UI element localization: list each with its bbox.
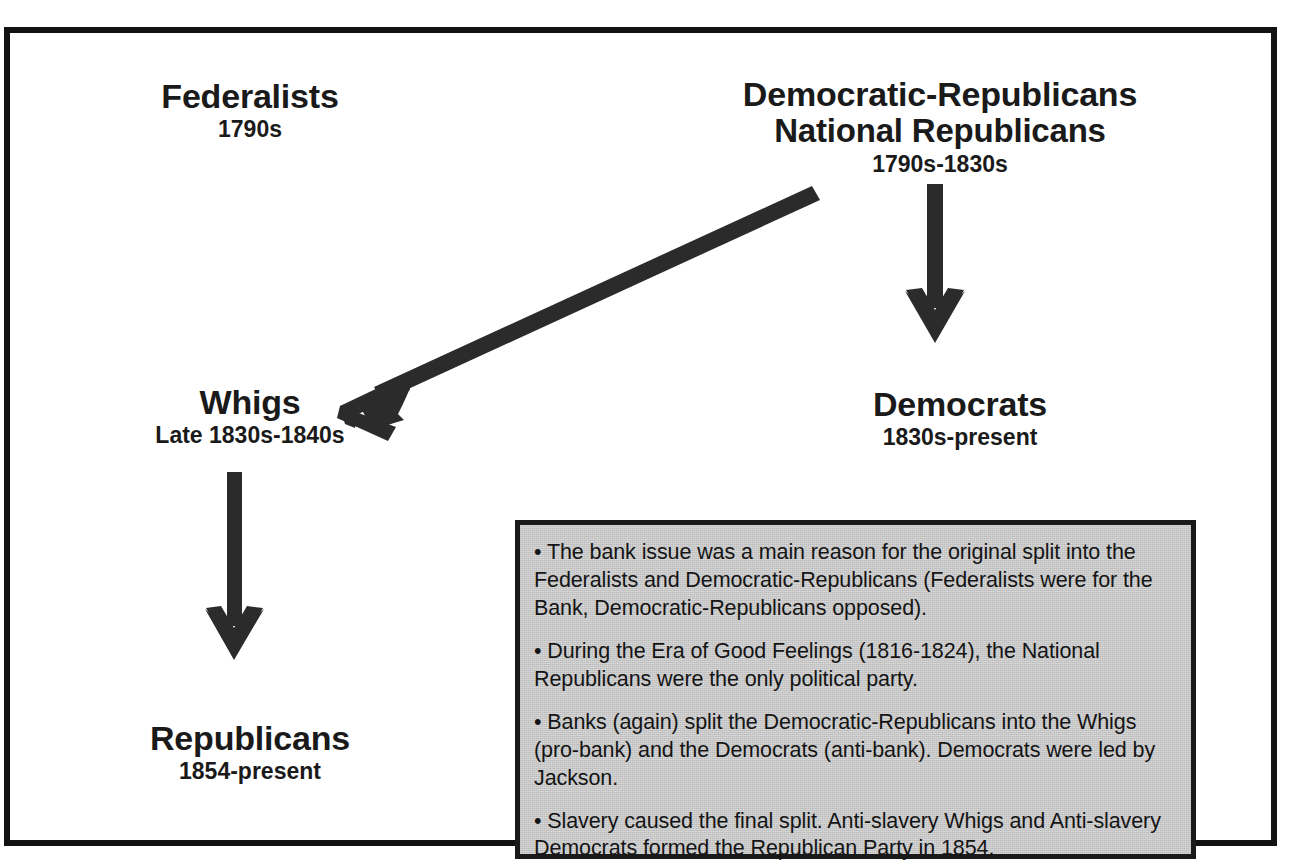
diagram-frame: Federalists 1790s Democratic-Republicans… (4, 27, 1277, 846)
note-bullet-3: • Banks (again) split the Democratic-Rep… (534, 709, 1175, 793)
node-whigs-years: Late 1830s-1840s (70, 423, 430, 449)
node-republicans-title: Republicans (70, 719, 430, 757)
node-democrats: Democrats 1830s-present (780, 385, 1140, 451)
node-democrats-title: Democrats (780, 385, 1140, 423)
node-democratic-republicans-title-line2: National Republicans (670, 113, 1210, 150)
notes-box: • The bank issue was a main reason for t… (515, 520, 1196, 859)
diagram-page: Federalists 1790s Democratic-Republicans… (0, 0, 1292, 865)
node-federalists-years: 1790s (70, 117, 430, 143)
node-democratic-republicans-years: 1790s-1830s (670, 152, 1210, 178)
node-federalists-title: Federalists (70, 77, 430, 115)
node-republicans-years: 1854-present (70, 759, 430, 785)
node-whigs: Whigs Late 1830s-1840s (70, 383, 430, 449)
node-whigs-title: Whigs (70, 383, 430, 421)
note-bullet-1: • The bank issue was a main reason for t… (534, 539, 1175, 623)
note-bullet-2: • During the Era of Good Feelings (1816-… (534, 638, 1175, 694)
node-democrats-years: 1830s-present (780, 425, 1140, 451)
note-bullet-4: • Slavery caused the final split. Anti-s… (534, 808, 1175, 864)
node-federalists: Federalists 1790s (70, 77, 430, 143)
node-democratic-republicans: Democratic-Republicans National Republic… (670, 75, 1210, 178)
node-republicans: Republicans 1854-present (70, 719, 430, 785)
node-democratic-republicans-title-line1: Democratic-Republicans (670, 75, 1210, 113)
